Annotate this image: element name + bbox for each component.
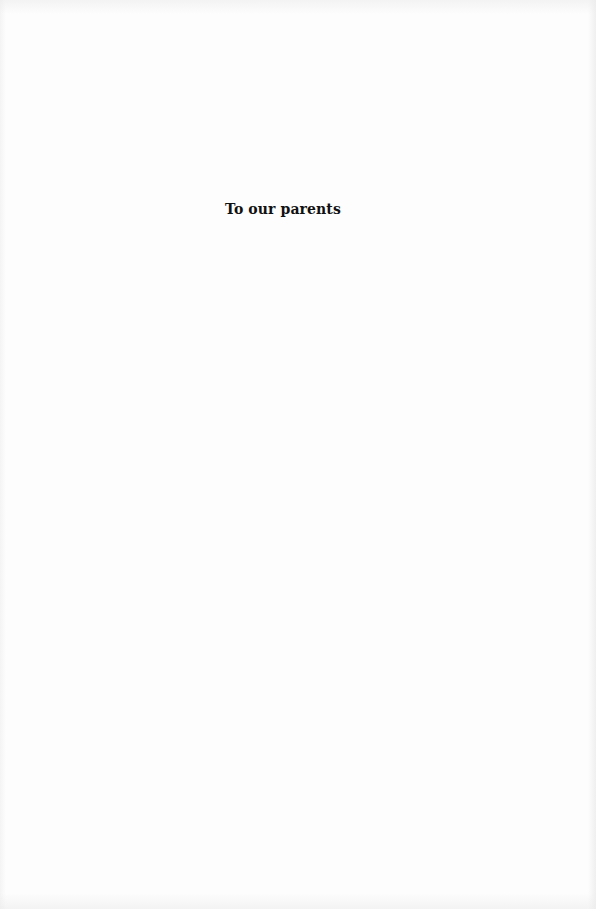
dedication-text: To our parents [225, 199, 341, 219]
document-page: To our parents [0, 0, 596, 909]
